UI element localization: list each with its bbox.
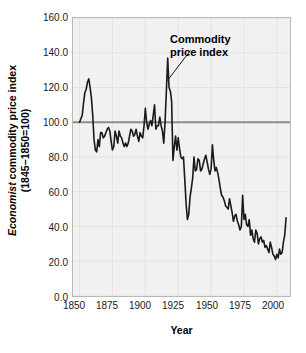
x-axis-title: Year bbox=[72, 324, 291, 336]
chart-figure: Economist commodity price index (1845−18… bbox=[0, 0, 306, 353]
x-tick-2000: 2000 bbox=[251, 301, 295, 311]
x-axis-tick-labels: 1850 1875 1900 1925 1950 1975 2000 bbox=[0, 0, 306, 353]
